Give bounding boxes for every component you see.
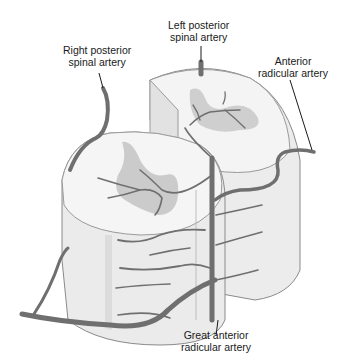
label-anterior-radicular-artery: Anterior radicular artery bbox=[258, 55, 328, 79]
label-great-anterior-radicular-artery: Great anterior radicular artery bbox=[181, 329, 251, 353]
spinal-cord-diagram: Left posterior spinal artery Right poste… bbox=[0, 0, 347, 361]
label-left-posterior-spinal-artery: Left posterior spinal artery bbox=[168, 19, 229, 43]
label-right-posterior-spinal-artery: Right posterior spinal artery bbox=[63, 44, 131, 68]
